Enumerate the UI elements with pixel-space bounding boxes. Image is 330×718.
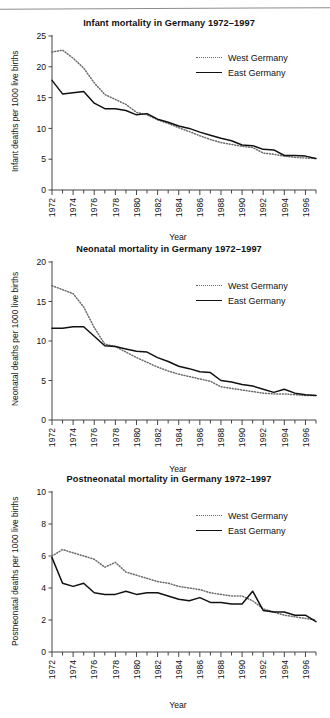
svg-text:1986: 1986 bbox=[195, 428, 205, 447]
svg-text:1976: 1976 bbox=[89, 660, 99, 679]
svg-text:1978: 1978 bbox=[111, 428, 121, 447]
svg-text:1984: 1984 bbox=[174, 428, 184, 447]
legend-label-east: East Germany bbox=[228, 526, 286, 536]
plot-area: Postneonatal deaths per 1000 live births… bbox=[0, 486, 330, 698]
legend-label-east: East Germany bbox=[228, 296, 286, 306]
x-axis-label: Year bbox=[0, 232, 330, 242]
svg-text:1984: 1984 bbox=[174, 198, 184, 217]
legend-item-east: East Germany bbox=[196, 523, 288, 538]
x-axis-label: Year bbox=[0, 464, 330, 474]
svg-text:4: 4 bbox=[41, 583, 46, 593]
legend-swatch-east-icon bbox=[196, 526, 222, 536]
chart-title: Postneonatal mortality in Germany 1972–1… bbox=[0, 474, 330, 484]
svg-text:1972: 1972 bbox=[47, 660, 57, 679]
svg-text:1980: 1980 bbox=[132, 660, 142, 679]
svg-text:1980: 1980 bbox=[132, 428, 142, 447]
legend-swatch-west-icon bbox=[196, 53, 222, 63]
figure-postneonatal-mortality: Postneonatal mortality in Germany 1972–1… bbox=[0, 474, 330, 706]
svg-text:1994: 1994 bbox=[280, 428, 290, 447]
svg-text:8: 8 bbox=[41, 519, 46, 529]
svg-text:25: 25 bbox=[36, 31, 46, 41]
svg-text:5: 5 bbox=[41, 376, 46, 386]
svg-text:1978: 1978 bbox=[111, 660, 121, 679]
svg-text:1996: 1996 bbox=[301, 660, 311, 679]
svg-text:10: 10 bbox=[36, 124, 46, 134]
svg-text:0: 0 bbox=[41, 647, 46, 657]
svg-text:6: 6 bbox=[41, 551, 46, 561]
svg-text:1972: 1972 bbox=[47, 198, 57, 217]
svg-text:1990: 1990 bbox=[237, 428, 247, 447]
legend-label-east: East Germany bbox=[228, 68, 286, 78]
legend-item-west: West Germany bbox=[196, 50, 288, 65]
x-axis-label: Year bbox=[0, 700, 330, 710]
legend-item-east: East Germany bbox=[196, 293, 288, 308]
svg-text:1976: 1976 bbox=[89, 198, 99, 217]
svg-text:1982: 1982 bbox=[153, 660, 163, 679]
svg-text:1994: 1994 bbox=[280, 660, 290, 679]
svg-text:20: 20 bbox=[36, 257, 46, 267]
plot-area: Neonatal deaths per 1000 live births 051… bbox=[0, 256, 330, 462]
chart-legend: West Germany East Germany bbox=[196, 50, 288, 80]
svg-text:1988: 1988 bbox=[216, 428, 226, 447]
svg-text:1974: 1974 bbox=[68, 198, 78, 217]
svg-text:10: 10 bbox=[36, 336, 46, 346]
legend-swatch-west-icon bbox=[196, 511, 222, 521]
svg-text:1982: 1982 bbox=[153, 198, 163, 217]
svg-text:1994: 1994 bbox=[280, 198, 290, 217]
legend-label-west: West Germany bbox=[228, 511, 288, 521]
legend-swatch-west-icon bbox=[196, 281, 222, 291]
svg-text:2: 2 bbox=[41, 615, 46, 625]
svg-text:1982: 1982 bbox=[153, 428, 163, 447]
legend-item-west: West Germany bbox=[196, 508, 288, 523]
svg-text:1992: 1992 bbox=[258, 428, 268, 447]
svg-text:1986: 1986 bbox=[195, 660, 205, 679]
plot-area: Infant deaths per 1000 live births 05101… bbox=[0, 30, 330, 230]
svg-text:1992: 1992 bbox=[258, 660, 268, 679]
svg-text:15: 15 bbox=[36, 93, 46, 103]
chart-legend: West Germany East Germany bbox=[196, 278, 288, 308]
svg-text:1992: 1992 bbox=[258, 198, 268, 217]
svg-text:1996: 1996 bbox=[301, 428, 311, 447]
legend-swatch-east-icon bbox=[196, 68, 222, 78]
svg-text:1988: 1988 bbox=[216, 198, 226, 217]
svg-text:1990: 1990 bbox=[237, 660, 247, 679]
svg-text:1980: 1980 bbox=[132, 198, 142, 217]
svg-text:1972: 1972 bbox=[47, 428, 57, 447]
svg-text:5: 5 bbox=[41, 154, 46, 164]
svg-text:1984: 1984 bbox=[174, 660, 184, 679]
chart-legend: West Germany East Germany bbox=[196, 508, 288, 538]
chart-title: Neonatal mortality in Germany 1972–1997 bbox=[0, 244, 330, 254]
figure-infant-mortality: Infant mortality in Germany 1972–1997 In… bbox=[0, 18, 330, 240]
svg-text:1976: 1976 bbox=[89, 428, 99, 447]
svg-text:1990: 1990 bbox=[237, 198, 247, 217]
svg-text:0: 0 bbox=[41, 415, 46, 425]
svg-text:15: 15 bbox=[36, 297, 46, 307]
svg-text:20: 20 bbox=[36, 62, 46, 72]
svg-text:1978: 1978 bbox=[111, 198, 121, 217]
svg-text:10: 10 bbox=[36, 487, 46, 497]
page-header-rule bbox=[0, 7, 330, 9]
legend-swatch-east-icon bbox=[196, 296, 222, 306]
legend-label-west: West Germany bbox=[228, 281, 288, 291]
svg-text:0: 0 bbox=[41, 185, 46, 195]
legend-label-west: West Germany bbox=[228, 53, 288, 63]
legend-item-east: East Germany bbox=[196, 65, 288, 80]
chart-title: Infant mortality in Germany 1972–1997 bbox=[0, 18, 330, 28]
svg-text:1996: 1996 bbox=[301, 198, 311, 217]
svg-text:1974: 1974 bbox=[68, 660, 78, 679]
svg-text:1988: 1988 bbox=[216, 660, 226, 679]
legend-item-west: West Germany bbox=[196, 278, 288, 293]
svg-text:1986: 1986 bbox=[195, 198, 205, 217]
svg-text:1974: 1974 bbox=[68, 428, 78, 447]
figure-neonatal-mortality: Neonatal mortality in Germany 1972–1997 … bbox=[0, 244, 330, 470]
